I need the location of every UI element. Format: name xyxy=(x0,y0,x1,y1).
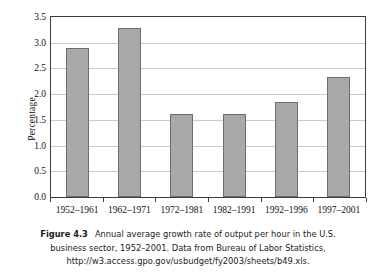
x-axis-tick-mark xyxy=(366,198,367,202)
bar-slot xyxy=(260,17,312,197)
x-axis-tick-mark xyxy=(261,198,262,202)
x-axis-tick-mark xyxy=(155,198,156,202)
bar xyxy=(170,114,193,197)
bar-slot xyxy=(156,17,208,197)
bar xyxy=(223,114,246,197)
bar-slot xyxy=(208,17,260,197)
figure-number: Figure 4.3 xyxy=(40,229,88,239)
x-axis-tick-label: 1997–2001 xyxy=(313,205,365,215)
bar-slot xyxy=(313,17,365,197)
x-axis-tick-mark xyxy=(208,198,209,202)
x-axis-tick-marks xyxy=(50,198,366,203)
bar xyxy=(275,102,298,197)
bar-slot xyxy=(103,17,155,197)
bar xyxy=(327,77,350,197)
figure-caption: Figure 4.3Annual average growth rate of … xyxy=(22,228,354,269)
bar-slot xyxy=(51,17,103,197)
x-axis-tick-label: 1982–1991 xyxy=(208,205,260,215)
x-axis-tick-mark xyxy=(103,198,104,202)
bar xyxy=(66,48,89,197)
x-axis-tick-label: 1952–1961 xyxy=(51,205,103,215)
x-axis-tick-label: 1962–1971 xyxy=(103,205,155,215)
x-axis-tick-labels: 1952–19611962–19711972–19811982–19911992… xyxy=(51,205,365,215)
bar-chart: Percentage 0.00.51.01.52.02.53.03.5 1952… xyxy=(0,6,376,221)
bar xyxy=(118,28,141,197)
x-axis-tick-label: 1992–1996 xyxy=(260,205,312,215)
x-axis-tick-mark xyxy=(50,198,51,202)
x-axis-tick-mark xyxy=(313,198,314,202)
bar-group xyxy=(51,17,365,197)
x-axis-tick-label: 1972–1981 xyxy=(156,205,208,215)
caption-text: Annual average growth rate of output per… xyxy=(50,229,335,266)
figure-container: Percentage 0.00.51.01.52.02.53.03.5 1952… xyxy=(0,0,376,277)
